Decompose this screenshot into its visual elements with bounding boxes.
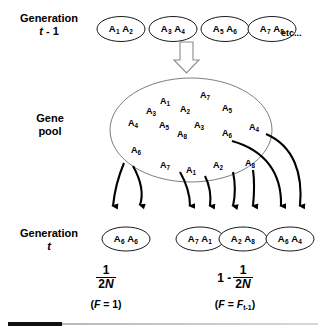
genotype-label: A6A4 <box>266 233 314 244</box>
pool-allele: A1 <box>186 165 196 175</box>
allele-index: 6 <box>285 238 289 245</box>
probability-formula-left: 1 2N <box>64 264 148 291</box>
sampling-arrow <box>232 141 281 206</box>
gene-pool-label: Gene pool <box>14 112 86 138</box>
pool-allele: A5 <box>159 120 169 130</box>
generation-prev-label: Generation t - 1 <box>6 12 92 38</box>
allele-index: 6 <box>134 238 138 245</box>
generation-prev-label-line2: t - 1 <box>6 25 92 38</box>
pool-allele: A2 <box>213 160 223 170</box>
fraction-numerator: 1 <box>96 264 115 277</box>
drift-diagram-figure: Generation t - 1 Gene pool Generation t … <box>0 0 324 331</box>
genotype-label: A1A2 <box>97 23 145 34</box>
sampling-arrow <box>233 172 235 206</box>
allele-index: 2 <box>129 28 133 35</box>
allele-symbol: A <box>188 233 195 244</box>
allele-symbol: A <box>114 233 121 244</box>
inbreeding-condition-left: (F = 1) <box>64 298 148 310</box>
allele-symbol: A <box>161 23 168 34</box>
generation-prev-offset: - 1 <box>43 25 59 37</box>
pool-allele: A7 <box>200 90 210 100</box>
allele-symbol: A <box>231 233 238 244</box>
allele-symbol: A <box>278 233 285 244</box>
allele-index: 4 <box>181 28 185 35</box>
pool-allele: A2 <box>180 104 190 114</box>
sampling-arrows <box>113 134 301 206</box>
allele-index: 4 <box>298 238 302 245</box>
generation-prev-label-line1: Generation <box>20 12 78 24</box>
allele-index: 7 <box>195 238 199 245</box>
sampling-arrow <box>180 172 190 206</box>
allele-index: 6 <box>233 28 237 35</box>
allele-index: 5 <box>220 28 224 35</box>
probability-formula-right: 1 - 1 2N <box>180 264 290 291</box>
pool-allele: A4 <box>128 118 138 128</box>
genotype-label: A3A4 <box>149 23 197 34</box>
formula-lead-term: 1 - <box>217 271 233 285</box>
genotype-label: A6A6 <box>102 233 150 244</box>
sampling-arrow <box>266 134 301 206</box>
inbreeding-condition-right: (F = Ft-1) <box>180 298 290 310</box>
sampling-arrow <box>133 166 142 205</box>
fraction-one-over-2n: 1 2N <box>96 264 115 291</box>
pool-allele: A8 <box>245 158 255 168</box>
generation-t-symbol: t <box>6 240 92 253</box>
bottom-rule-light-segment <box>62 323 318 325</box>
bottom-rule-dark-segment <box>8 322 62 326</box>
allele-symbol: A <box>109 23 116 34</box>
allele-index: 8 <box>280 28 284 35</box>
allele-index: 1 <box>208 238 212 245</box>
allele-symbol: A <box>213 23 220 34</box>
allele-index: 7 <box>267 28 271 35</box>
gene-pool-label-line1: Gene <box>36 112 64 124</box>
genotype-label: A5A6 <box>201 23 249 34</box>
allele-index: 6 <box>121 238 125 245</box>
allele-index: 8 <box>251 238 255 245</box>
pool-allele: A8 <box>177 129 187 139</box>
pool-allele: A6 <box>222 128 232 138</box>
genotype-label: A2A8 <box>219 233 267 244</box>
pool-allele: A7 <box>160 160 170 170</box>
f-subscript: t-1 <box>243 304 252 311</box>
gene-pool-label-line2: pool <box>14 125 86 138</box>
pool-allele: A3 <box>146 106 156 116</box>
allele-symbol: A <box>260 23 267 34</box>
pool-input-arrow <box>174 42 199 73</box>
pool-allele: A1 <box>160 96 170 106</box>
sampling-arrow <box>113 163 124 206</box>
fraction-numerator: 1 <box>233 264 252 277</box>
pool-allele: A6 <box>131 145 141 155</box>
pool-allele: A4 <box>249 122 259 132</box>
fraction-one-over-2n: 1 2N <box>233 264 252 291</box>
generation-t-label-line1: Generation <box>20 227 78 239</box>
pool-allele: A3 <box>194 120 204 130</box>
sampling-arrow <box>253 170 254 206</box>
allele-index: 2 <box>238 238 242 245</box>
pool-allele: A5 <box>222 103 232 113</box>
genotype-label: A7A8 <box>248 23 296 34</box>
genotype-label: A7A1 <box>176 233 224 244</box>
fraction-denominator: 2N <box>233 277 252 291</box>
fraction-denominator: 2N <box>96 277 115 291</box>
generation-t-label: Generation t <box>6 227 92 253</box>
allele-index: 1 <box>116 28 120 35</box>
allele-index: 3 <box>168 28 172 35</box>
